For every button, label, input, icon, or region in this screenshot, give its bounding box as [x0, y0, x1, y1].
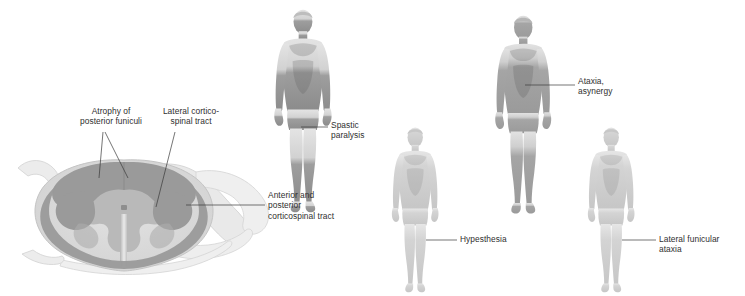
central-canal: [121, 205, 127, 210]
right-hand: [627, 208, 634, 222]
left-foot: [405, 284, 413, 293]
left-ventral-rootlet: [22, 250, 64, 265]
anatomical-illustration: [0, 0, 745, 296]
right-hand: [431, 208, 438, 222]
left-hand: [588, 208, 595, 222]
left-foot: [601, 284, 609, 293]
label-lateral-corticospinal-tract: Lateral cortico- spinal tract: [152, 106, 230, 127]
right-leg: [523, 132, 536, 207]
neck: [412, 145, 419, 151]
left-hand: [392, 208, 399, 222]
label-atrophy-posterior-funiculi: Atrophy of posterior funiculi: [68, 106, 154, 127]
left-foot: [511, 203, 520, 214]
illustration-stage: Atrophy of posterior funiculi Lateral co…: [0, 0, 745, 296]
pelvis: [402, 209, 428, 226]
label-ataxia-asynergy: Ataxia, asynergy: [578, 76, 642, 97]
left-hand: [495, 112, 504, 129]
body-figure-spastic-paralysis: [274, 10, 331, 213]
label-anterior-posterior-corticospinal-tract: Anterior and posterior corticospinal tra…: [268, 190, 372, 221]
body-figure-lateral-funicular-ataxia: [588, 127, 635, 292]
right-leg: [415, 224, 426, 286]
right-hand: [542, 112, 551, 129]
left-leg: [600, 224, 611, 286]
left-leg: [510, 132, 523, 207]
left-leg: [404, 224, 415, 286]
pelvis: [508, 113, 539, 133]
right-leg: [611, 224, 622, 286]
left-hand: [274, 109, 283, 126]
label-lateral-funicular-ataxia: Lateral funicular ataxia: [659, 234, 745, 255]
body-figure-ataxia-asynergy: [495, 16, 551, 214]
neck: [519, 37, 527, 45]
right-foot: [526, 203, 535, 214]
label-hypesthesia: Hypesthesia: [460, 234, 532, 244]
right-foot: [613, 284, 621, 293]
pelvis: [598, 209, 624, 226]
neck: [608, 145, 615, 151]
neck: [299, 31, 308, 39]
spinal-cord-cross-section: [18, 160, 269, 275]
right-foot: [417, 284, 425, 293]
label-spastic-paralysis: Spastic paralysis: [331, 120, 391, 141]
body-figure-hypesthesia: [392, 127, 439, 292]
